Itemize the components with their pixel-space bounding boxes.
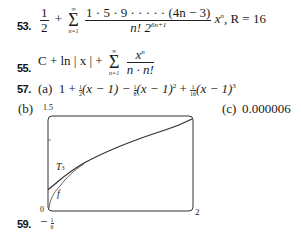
graph-plot: [0, 0, 301, 238]
t3-curve-label: T3: [56, 161, 65, 172]
answer-59-number: 59.: [17, 218, 31, 230]
graph-frame: [48, 116, 193, 211]
f-curve: [49, 164, 84, 208]
f-curve-label: f: [57, 188, 60, 199]
answer-59-expression: − 16: [40, 214, 54, 230]
t3-curve: [48, 119, 192, 190]
